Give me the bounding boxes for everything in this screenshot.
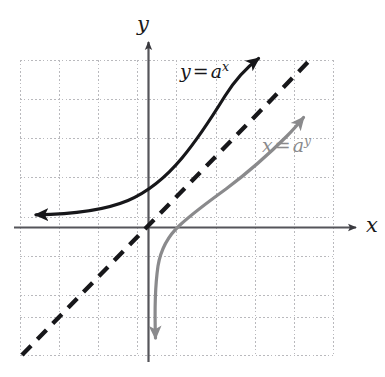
gray-curve-equation-label: x=ay xyxy=(262,136,311,155)
gray-label-base: a xyxy=(293,134,304,156)
black-label-base: a xyxy=(211,60,222,82)
black-label-equals: = xyxy=(191,60,211,82)
black-label-lhs: y xyxy=(180,60,191,82)
gray-label-lhs: x xyxy=(262,134,273,156)
black-curve-equation-label: y=ax xyxy=(180,62,229,81)
gray-label-exponent: y xyxy=(304,133,311,148)
graph-canvas xyxy=(0,0,385,377)
axes xyxy=(14,42,356,362)
x-axis-label: x xyxy=(366,215,378,236)
identity-line-dashed xyxy=(22,59,311,355)
gray-label-equals: = xyxy=(273,134,293,156)
grid xyxy=(20,60,334,356)
y-axis-label: y xyxy=(137,14,149,35)
math-graph-figure: y x y=ax x=ay xyxy=(0,0,385,377)
black-label-exponent: x xyxy=(222,59,229,74)
